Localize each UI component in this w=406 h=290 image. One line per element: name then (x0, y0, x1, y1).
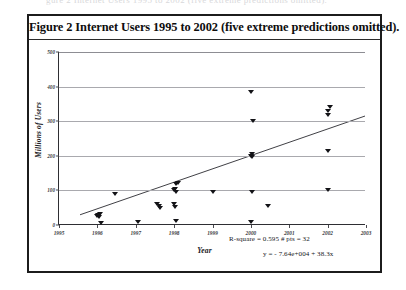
x-axis-tick-mark (136, 225, 137, 228)
regression-equation-annotation: y = - 7.64e+004 + 38.3x (263, 250, 333, 258)
plot-top-rule (59, 52, 365, 53)
x-axis-tick-label: 2002 (322, 230, 333, 236)
chart-container: Millions of Users 0100200300400500199519… (29, 40, 380, 271)
x-axis-tick-mark (289, 225, 290, 228)
data-point-marker (249, 155, 255, 159)
data-point-marker (175, 181, 181, 185)
data-point-marker (172, 205, 178, 209)
x-axis-tick-label: 1995 (54, 230, 65, 236)
data-point-marker (248, 90, 254, 94)
data-point-marker (135, 220, 141, 224)
data-point-marker (249, 190, 255, 194)
cropped-scan-text-line: gure 2 Internet Users 1995 to 2002 (five… (0, 0, 406, 11)
data-point-marker (157, 206, 163, 210)
x-axis-tick-mark (174, 225, 175, 228)
x-axis-tick-mark (251, 225, 252, 228)
y-axis-tick-label: 400 (47, 84, 55, 90)
y-axis-tick-mark (56, 121, 59, 122)
gridline-y-300 (59, 121, 365, 122)
x-axis-tick-label: 1998 (169, 230, 180, 236)
data-point-marker (250, 119, 256, 123)
x-axis-tick-mark (328, 225, 329, 228)
data-point-marker (98, 221, 104, 225)
x-axis-tick-mark (366, 225, 367, 228)
y-axis-tick-mark (56, 155, 59, 156)
gridline-y-200 (59, 156, 365, 157)
regression-line (59, 52, 365, 225)
data-point-marker (112, 192, 118, 196)
data-point-marker (248, 220, 254, 224)
y-axis-tick-label: 500 (47, 49, 55, 55)
data-point-marker (96, 215, 102, 219)
r-square-annotation: R-square = 0.595 # pts = 32 (229, 235, 310, 243)
data-point-marker (265, 204, 271, 208)
x-axis-tick-mark (213, 225, 214, 228)
y-axis-tick-label: 300 (47, 118, 55, 124)
x-axis-tick-mark (97, 225, 98, 228)
y-axis-tick-mark (56, 190, 59, 191)
figure-caption: Figure 2 Internet Users 1995 to 2002 (fi… (29, 16, 380, 39)
y-axis-tick-mark (56, 86, 59, 87)
data-point-marker (173, 190, 179, 194)
x-axis-tick-label: 2003 (361, 230, 372, 236)
x-axis-tick-mark (59, 225, 60, 228)
x-axis-tick-label: 1999 (207, 230, 218, 236)
data-point-marker (97, 212, 103, 216)
cropped-scan-text: gure 2 Internet Users 1995 to 2002 (five… (46, 0, 327, 5)
x-axis-tick-label: 1996 (92, 230, 103, 236)
data-point-marker (325, 113, 331, 117)
plot-area: 0100200300400500199519961997199819992000… (58, 52, 365, 225)
data-point-marker (327, 105, 333, 109)
y-axis-tick-label: 200 (47, 153, 55, 159)
data-point-marker (325, 188, 331, 192)
data-point-marker (210, 190, 216, 194)
data-point-marker (173, 219, 179, 223)
data-point-marker (325, 149, 331, 153)
y-axis-tick-label: 0 (52, 222, 55, 228)
x-axis-tick-label: 1997 (130, 230, 141, 236)
gridline-y-400 (59, 87, 365, 88)
y-axis-tick-label: 100 (47, 187, 55, 193)
y-axis-label: Millions of Users (34, 102, 43, 158)
